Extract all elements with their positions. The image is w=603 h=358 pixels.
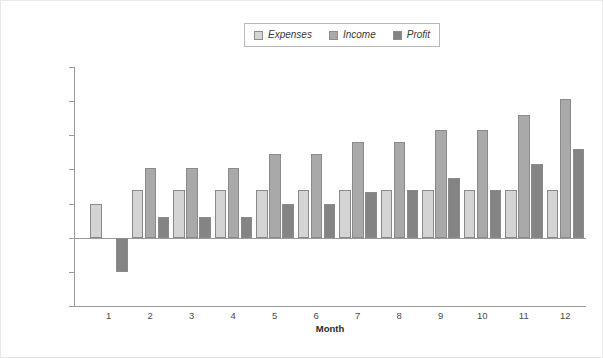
y-tick-mark — [69, 67, 74, 68]
bar-profit-month-5[interactable] — [282, 204, 294, 238]
bar-profit-month-7[interactable] — [365, 192, 377, 238]
x-axis-ticks: 123456789101112 — [74, 310, 586, 324]
bar-profit-month-12[interactable] — [573, 149, 585, 238]
bar-expenses-month-9[interactable] — [422, 190, 434, 238]
bar-expenses-month-11[interactable] — [505, 190, 517, 238]
bar-expenses-month-4[interactable] — [215, 190, 227, 238]
bar-profit-month-9[interactable] — [448, 178, 460, 238]
zero-baseline — [74, 238, 586, 239]
bar-profit-month-3[interactable] — [199, 217, 211, 237]
x-tick-label: 10 — [477, 310, 488, 321]
chart-figure: ExpensesIncomeProfit $50,000$40,000$30,0… — [0, 0, 603, 358]
bar-expenses-month-3[interactable] — [173, 190, 185, 238]
bar-income-month-4[interactable] — [228, 168, 240, 238]
y-axis-line — [74, 67, 75, 306]
x-axis-line — [74, 306, 586, 307]
bar-income-month-9[interactable] — [435, 130, 447, 238]
bar-expenses-month-1[interactable] — [90, 204, 102, 238]
bar-income-month-7[interactable] — [352, 142, 364, 238]
legend-label: Profit — [407, 30, 430, 40]
legend-item-expenses[interactable]: Expenses — [254, 30, 312, 40]
bar-income-month-8[interactable] — [394, 142, 406, 238]
y-tick-mark — [69, 204, 74, 205]
legend-item-income[interactable]: Income — [329, 30, 376, 40]
legend-swatch-icon — [329, 31, 338, 40]
legend-label: Expenses — [268, 30, 312, 40]
plot-area: $50,000$40,000$30,000$20,000$10,000$0-$1… — [74, 67, 586, 306]
bar-expenses-month-8[interactable] — [381, 190, 393, 238]
y-tick-mark — [69, 272, 74, 273]
bar-expenses-month-2[interactable] — [132, 190, 144, 238]
x-tick-label: 5 — [272, 310, 277, 321]
x-tick-label: 11 — [519, 310, 529, 321]
legend-swatch-icon — [393, 31, 402, 40]
bar-income-month-3[interactable] — [186, 168, 198, 238]
bar-expenses-month-12[interactable] — [547, 190, 559, 238]
x-tick-label: 9 — [438, 310, 443, 321]
bar-profit-month-4[interactable] — [241, 217, 253, 237]
bar-expenses-month-7[interactable] — [339, 190, 351, 238]
x-tick-label: 4 — [231, 310, 236, 321]
legend-label: Income — [343, 30, 376, 40]
x-tick-label: 2 — [148, 310, 153, 321]
y-tick-mark — [69, 135, 74, 136]
x-tick-label: 1 — [106, 310, 111, 321]
x-tick-label: 3 — [189, 310, 194, 321]
bar-profit-month-1[interactable] — [116, 238, 128, 272]
legend-swatch-icon — [254, 31, 263, 40]
bar-profit-month-8[interactable] — [407, 190, 419, 238]
y-tick-mark — [69, 101, 74, 102]
x-tick-label: 6 — [314, 310, 319, 321]
bar-income-month-5[interactable] — [269, 154, 281, 238]
x-axis-title: Month — [74, 323, 586, 334]
bar-income-month-12[interactable] — [560, 99, 572, 237]
bar-income-month-2[interactable] — [145, 168, 157, 238]
bar-expenses-month-5[interactable] — [256, 190, 268, 238]
x-tick-label: 8 — [397, 310, 402, 321]
bar-income-month-10[interactable] — [477, 130, 489, 238]
legend-item-profit[interactable]: Profit — [393, 30, 430, 40]
x-tick-label: 12 — [560, 310, 571, 321]
bar-income-month-6[interactable] — [311, 154, 323, 238]
bar-expenses-month-10[interactable] — [464, 190, 476, 238]
y-tick-mark — [69, 169, 74, 170]
bar-profit-month-11[interactable] — [531, 164, 543, 237]
bar-profit-month-6[interactable] — [324, 204, 336, 238]
chart-legend: ExpensesIncomeProfit — [244, 23, 440, 47]
bar-expenses-month-6[interactable] — [298, 190, 310, 238]
x-tick-label: 7 — [355, 310, 360, 321]
bar-income-month-11[interactable] — [518, 115, 530, 238]
bar-profit-month-2[interactable] — [158, 217, 170, 237]
bar-profit-month-10[interactable] — [490, 190, 502, 238]
